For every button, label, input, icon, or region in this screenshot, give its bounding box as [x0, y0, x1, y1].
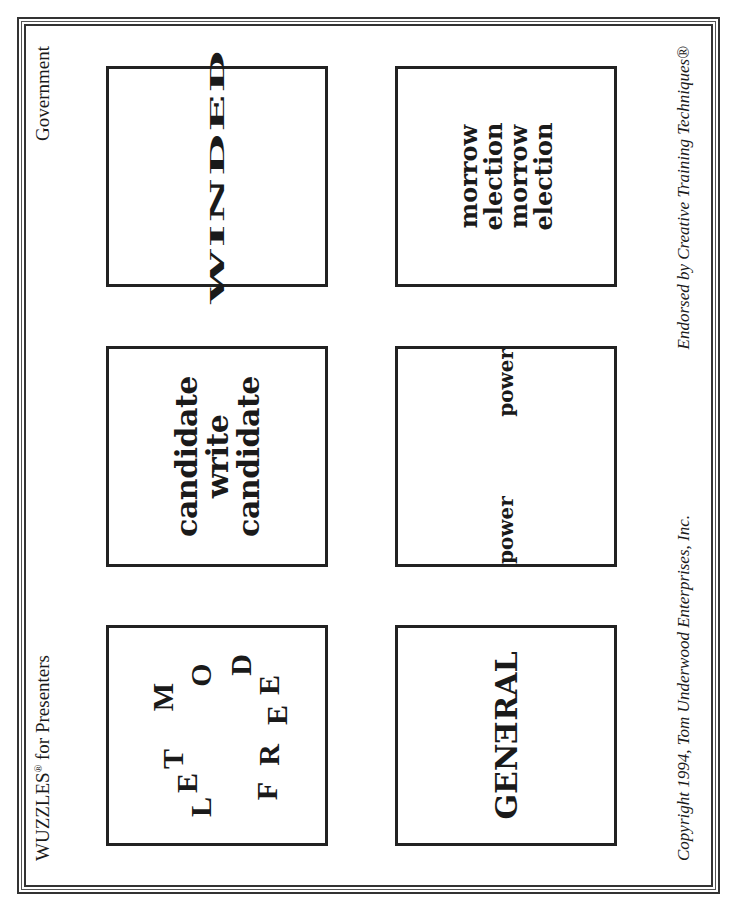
word-line: morrow election	[506, 69, 556, 284]
wuzzles-page: WUZZLES® for Presenters Government 7 LET…	[0, 0, 738, 907]
endorsement-notice: Endorsed by Creative Training Techniques…	[674, 46, 694, 349]
ring-letter: R	[252, 744, 286, 766]
ring-letter: F	[250, 782, 284, 800]
word-left: power	[494, 496, 518, 564]
word-line: candidate	[233, 349, 264, 564]
ring-letter: E	[170, 773, 204, 793]
ring-letter: O	[184, 663, 218, 686]
puzzle-box-8: candidate write candidate	[106, 346, 328, 567]
category-label: Government	[32, 46, 54, 141]
reversed-letter-word: GENERAL	[489, 651, 524, 819]
puzzle-box-7: LETMODEERF	[106, 625, 328, 846]
puzzle-box-12: morrow election morrow election	[395, 66, 617, 287]
ring-letter: E	[252, 675, 286, 695]
word-line: morrow election	[456, 69, 506, 284]
word-line: write	[202, 349, 233, 564]
stacked-words: candidate write candidate	[171, 349, 264, 564]
word-line: candidate	[171, 349, 202, 564]
page-title: WUZZLES® for Presenters	[32, 655, 54, 861]
title-subtitle: for Presenters	[32, 655, 53, 765]
reversed-letter: E	[489, 721, 524, 744]
ring-letter: T	[156, 749, 190, 769]
puzzle-box-10: GENERAL	[395, 625, 617, 846]
puzzle-box-9: WINDED	[106, 66, 328, 287]
squashed-word: WINDED	[206, 49, 228, 304]
word-end: RAL	[489, 651, 524, 720]
puzzle-box-11: power power	[395, 346, 617, 567]
ring-letter: L	[184, 797, 218, 817]
copyright-notice: Copyright 1994, Tom Underwood Enterprise…	[674, 515, 694, 861]
ring-letter: M	[146, 683, 180, 711]
word-start: GEN	[489, 744, 524, 820]
word-right: power	[494, 349, 518, 417]
stacked-words: morrow election morrow election	[456, 69, 556, 284]
ring-letter: D	[224, 654, 258, 676]
ring-letter: E	[260, 705, 294, 725]
registered-mark: ®	[33, 765, 44, 773]
title-brand: WUZZLES	[32, 772, 53, 861]
